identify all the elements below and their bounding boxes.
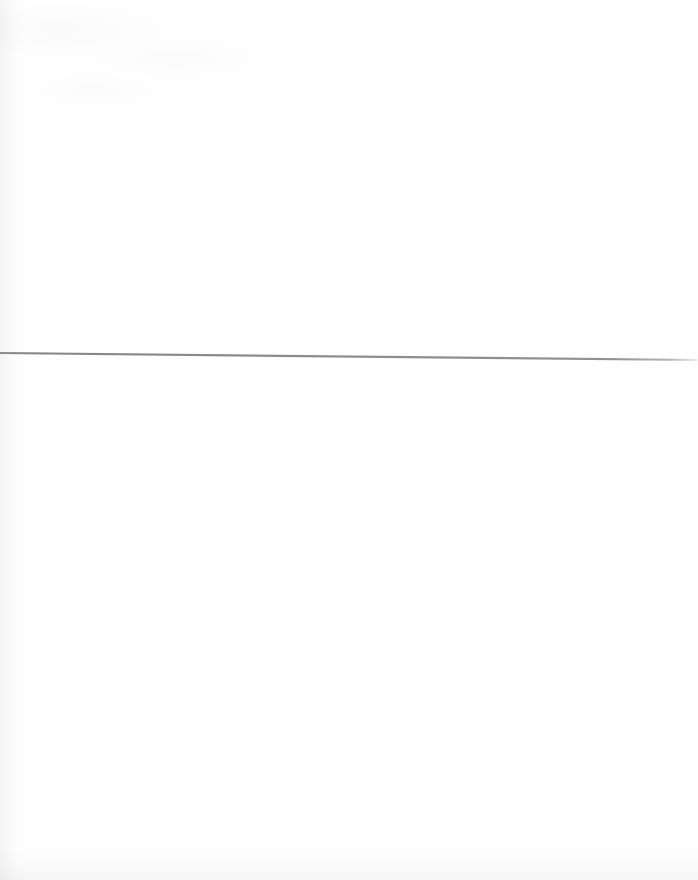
scanned-page (0, 0, 698, 880)
paper-background (0, 0, 698, 880)
